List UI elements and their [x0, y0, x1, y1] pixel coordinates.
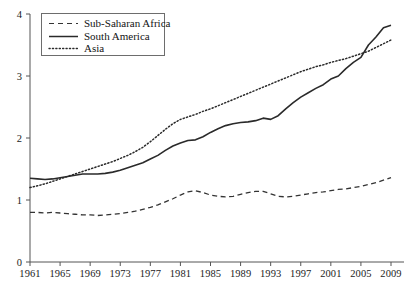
series-line-asia: [30, 40, 391, 188]
legend-label: South America: [84, 31, 150, 42]
x-axis-tick-label: 1965: [49, 268, 70, 279]
legend-label: Asia: [84, 43, 104, 54]
x-axis-tick-label: 1981: [170, 268, 191, 279]
x-axis-tick-label: 1961: [19, 268, 40, 279]
series-line-sub-saharan-africa: [30, 178, 391, 216]
x-axis-tick-label: 1969: [79, 268, 100, 279]
y-axis-tick-label: 2: [4, 133, 22, 144]
x-axis-tick-label: 1993: [260, 268, 281, 279]
legend-swatch-dotted-icon: [48, 43, 79, 54]
x-axis-tick-label: 1977: [140, 268, 161, 279]
legend-swatch-dashed-icon: [48, 18, 79, 29]
x-axis-tick-label: 2009: [380, 268, 401, 279]
y-axis-tick-label: 3: [4, 71, 22, 82]
y-axis-tick-label: 4: [4, 9, 22, 20]
y-axis-tick-label: 0: [4, 257, 22, 268]
legend-item-sub-saharan-africa: Sub-Saharan Africa: [48, 17, 170, 30]
x-axis-tick-label: 1997: [290, 268, 311, 279]
x-axis-tick-label: 1973: [110, 268, 131, 279]
x-axis-tick-label: 2001: [320, 268, 341, 279]
chart-legend: Sub-Saharan Africa South America Asia: [41, 13, 165, 56]
x-axis-tick-label: 1989: [230, 268, 251, 279]
legend-label: Sub-Saharan Africa: [84, 18, 170, 29]
x-axis-tick-label: 2005: [350, 268, 371, 279]
y-axis-tick-label: 1: [4, 195, 22, 206]
legend-swatch-solid-icon: [48, 31, 79, 42]
legend-item-asia: Asia: [48, 42, 104, 55]
x-axis-tick-label: 1985: [200, 268, 221, 279]
line-chart-figure: 01234 1961196519691973197719811985198919…: [0, 0, 414, 303]
